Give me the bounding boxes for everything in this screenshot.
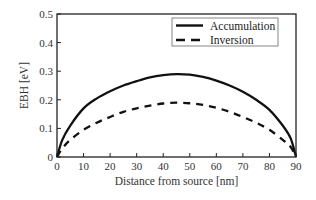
y-tick-label: 0.1 bbox=[39, 122, 53, 134]
x-tick-label: 10 bbox=[78, 160, 90, 172]
y-tick-label: 0.4 bbox=[39, 37, 53, 49]
x-tick-label: 60 bbox=[211, 160, 223, 172]
ebh-chart: 010203040506070809000.10.20.30.40.5 Dist… bbox=[0, 0, 316, 200]
x-tick-label: 90 bbox=[291, 160, 303, 172]
y-tick-label: 0.3 bbox=[39, 65, 53, 77]
legend-label-inversion: Inversion bbox=[210, 34, 254, 46]
x-tick-label: 30 bbox=[131, 160, 143, 172]
x-tick-label: 20 bbox=[105, 160, 117, 172]
y-tick-label: 0.2 bbox=[39, 94, 53, 106]
series-line-inversion bbox=[57, 103, 296, 157]
y-tick-label: 0 bbox=[48, 151, 54, 163]
series-line-accumulation bbox=[57, 74, 296, 157]
y-axis-title: EBH [eV] bbox=[18, 62, 30, 109]
x-tick-label: 70 bbox=[237, 160, 249, 172]
x-tick-label: 50 bbox=[184, 160, 196, 172]
legend-label-accumulation: Accumulation bbox=[210, 20, 275, 32]
legend: Accumulation Inversion bbox=[172, 18, 278, 46]
x-tick-label: 0 bbox=[54, 160, 60, 172]
x-tick-label: 40 bbox=[158, 160, 170, 172]
x-tick-label: 80 bbox=[264, 160, 276, 172]
y-tick-label: 0.5 bbox=[39, 8, 53, 20]
x-axis-title: Distance from source [nm] bbox=[115, 175, 239, 187]
series-layer bbox=[57, 74, 296, 157]
